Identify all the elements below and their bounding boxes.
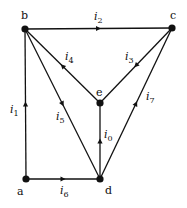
arrowhead-icon [97,139,102,144]
edge-label-i4: i4 [65,50,74,65]
node-label-d: d [105,184,112,197]
node-a [22,175,29,182]
arrowhead-icon [23,102,28,107]
edge-label-i5: i5 [56,110,65,125]
edge-i4 [25,29,100,103]
node-label-a: a [17,185,24,198]
node-d [96,175,103,182]
arrowhead-icon [96,26,101,31]
edge-label-i7: i7 [146,90,155,105]
graph-canvas: i0i1i2i3i4i5i6i7abcde [0,0,187,208]
node-c [168,24,175,31]
edge-label-i1: i1 [10,103,19,118]
edge-i1 [23,29,28,179]
edge-i0 [97,103,102,179]
edge-label-i6: i6 [60,184,69,199]
node-b [21,25,28,32]
edge-i2 [25,26,172,31]
node-label-b: b [21,9,28,22]
edge-i6 [26,176,100,181]
labels-layer: i0i1i2i3i4i5i6i7abcde [10,9,176,199]
edge-label-i0: i0 [104,128,113,143]
edge-i7 [100,28,172,179]
node-e [96,99,103,106]
arrowhead-icon [61,176,66,181]
edge-label-i3: i3 [125,50,134,65]
node-label-e: e [96,86,103,99]
circuit-graph-diagram: i0i1i2i3i4i5i6i7abcde [0,0,187,208]
edge-label-i2: i2 [94,10,103,25]
node-label-c: c [170,9,176,22]
edge-i3 [100,28,172,103]
edge-i5 [25,29,100,179]
